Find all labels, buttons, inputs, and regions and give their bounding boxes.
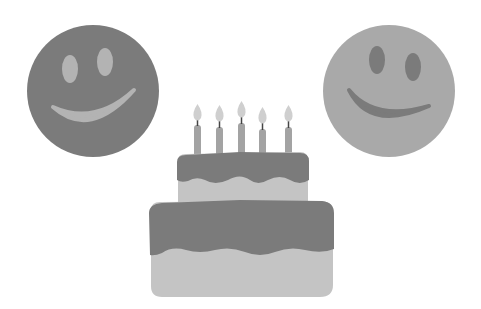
right-smiley-icon xyxy=(323,25,455,157)
right-eye xyxy=(405,53,421,81)
candle xyxy=(237,101,245,161)
candle xyxy=(193,104,201,161)
illustration xyxy=(0,0,481,309)
candle xyxy=(215,105,223,161)
right-eye xyxy=(97,48,113,76)
left-eye xyxy=(369,46,385,74)
left-eye xyxy=(62,55,78,83)
left-smiley-icon xyxy=(27,25,159,157)
candles xyxy=(193,101,292,161)
birthday-cake-icon xyxy=(149,101,334,297)
cake-bottom-tier xyxy=(149,200,334,297)
